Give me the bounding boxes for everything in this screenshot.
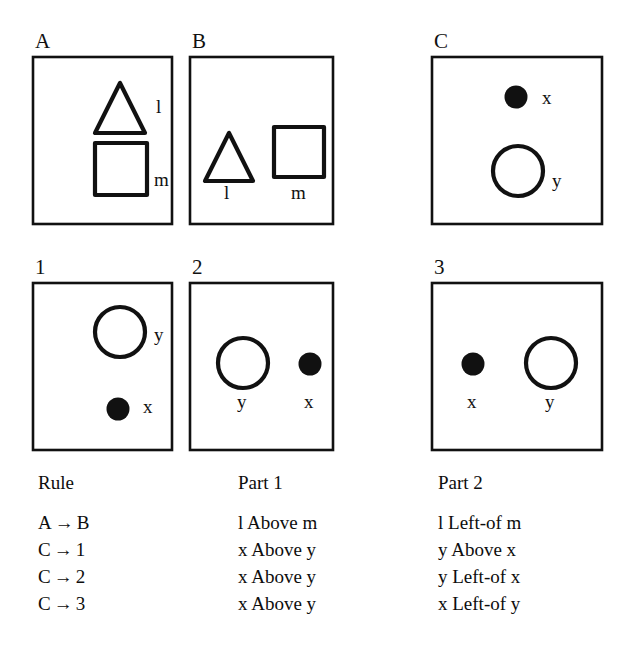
panel-2-dot bbox=[299, 353, 322, 376]
rule-column-row: C→3 bbox=[38, 590, 89, 617]
rule-target: 3 bbox=[76, 593, 86, 614]
panel-2: 2yx bbox=[190, 255, 333, 450]
rule-column-heading: Rule bbox=[38, 473, 89, 492]
shape-panels-figure: AlmBlmCxy1yx2yx3xy bbox=[0, 0, 635, 664]
rule-source: C bbox=[38, 566, 51, 587]
part-2-column-row: l Left-of m bbox=[438, 509, 521, 536]
panel-b-triangle-label: l bbox=[224, 182, 229, 203]
rule-target: 2 bbox=[76, 566, 86, 587]
panel-3-dot bbox=[462, 353, 485, 376]
panel-1-dot bbox=[107, 398, 130, 421]
panel-c-dot-label: x bbox=[542, 87, 552, 108]
arrow-icon: → bbox=[51, 590, 76, 617]
part-2-column-row: x Left-of y bbox=[438, 590, 521, 617]
arrow-icon: → bbox=[51, 536, 76, 563]
panel-2-dot-label: x bbox=[304, 391, 314, 412]
panel-3-label: 3 bbox=[434, 255, 445, 279]
panel-1-dot-label: x bbox=[143, 396, 153, 417]
rule-target: B bbox=[77, 512, 90, 533]
part-1-column-row: x Above y bbox=[238, 563, 317, 590]
panel-1-ring-label: y bbox=[154, 324, 164, 345]
panel-2-ring-label: y bbox=[237, 391, 247, 412]
panel-b-label: B bbox=[192, 29, 206, 53]
panel-b: Blm bbox=[190, 29, 333, 224]
rule-source: C bbox=[38, 593, 51, 614]
panel-1: 1yx bbox=[33, 255, 172, 450]
panel-c-label: C bbox=[434, 29, 448, 53]
panel-2-label: 2 bbox=[192, 255, 203, 279]
panel-3-dot-label: x bbox=[467, 391, 477, 412]
part-1-column: Part 1l Above mx Above yx Above yx Above… bbox=[238, 473, 317, 617]
panel-1-label: 1 bbox=[35, 255, 46, 279]
panel-c-frame bbox=[432, 57, 602, 224]
part-1-column-heading: Part 1 bbox=[238, 473, 317, 492]
part-2-column: Part 2l Left-of my Above xy Left-of xx L… bbox=[438, 473, 521, 617]
rule-column-row: C→1 bbox=[38, 536, 89, 563]
part-2-column-row: y Left-of x bbox=[438, 563, 521, 590]
rule-source: C bbox=[38, 539, 51, 560]
panel-b-square-label: m bbox=[291, 182, 306, 203]
rule-column-row: A→B bbox=[38, 509, 89, 536]
panel-3-ring-label: y bbox=[545, 391, 555, 412]
panel-3: 3xy bbox=[432, 255, 602, 450]
panel-a-triangle-label: l bbox=[156, 96, 161, 117]
rule-column-row: C→2 bbox=[38, 563, 89, 590]
panel-c-dot bbox=[505, 86, 528, 109]
panel-a-square-label: m bbox=[154, 169, 169, 190]
arrow-icon: → bbox=[51, 563, 76, 590]
part-1-column-row: l Above m bbox=[238, 509, 317, 536]
panel-c-ring-label: y bbox=[552, 170, 562, 191]
part-2-column-heading: Part 2 bbox=[438, 473, 521, 492]
panel-c: Cxy bbox=[432, 29, 602, 224]
part-1-column-row: x Above y bbox=[238, 536, 317, 563]
part-2-column-row: y Above x bbox=[438, 536, 521, 563]
rule-source: A bbox=[38, 512, 52, 533]
rule-target: 1 bbox=[76, 539, 86, 560]
panel-1-frame bbox=[33, 283, 172, 450]
panel-a: Alm bbox=[33, 29, 172, 224]
panel-a-frame bbox=[33, 57, 172, 224]
panel-b-frame bbox=[190, 57, 333, 224]
panel-a-label: A bbox=[35, 29, 51, 53]
rule-column: RuleA→BC→1C→2C→3 bbox=[38, 473, 89, 617]
part-1-column-row: x Above y bbox=[238, 590, 317, 617]
arrow-icon: → bbox=[52, 509, 77, 536]
